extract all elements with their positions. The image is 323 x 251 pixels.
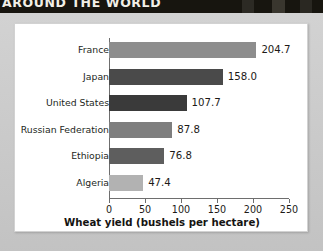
bar-row: Algeria47.4 (15, 171, 309, 195)
x-axis-tick (217, 199, 218, 203)
x-axis-tick (253, 199, 254, 203)
bar-value-label: 76.8 (169, 144, 192, 168)
bar-category-label: Algeria (0, 171, 109, 195)
bar-value-label: 107.7 (192, 91, 221, 115)
bar-category-label: France (0, 38, 109, 62)
bar-ethiopia (109, 148, 164, 164)
x-axis-tick (289, 199, 290, 203)
page-header-band: AROUND THE WORLD (0, 0, 323, 13)
x-axis-tick (109, 199, 110, 203)
bar-value-label: 204.7 (261, 38, 290, 62)
x-axis-tick-label: 100 (172, 204, 190, 215)
bar-france (109, 42, 256, 58)
x-axis-tick-label: 200 (244, 204, 262, 215)
bar-value-label: 158.0 (228, 65, 257, 89)
bar-row: Japan158.0 (15, 65, 309, 89)
bar-category-label: United States (0, 91, 109, 115)
x-axis-line (109, 198, 289, 199)
x-axis-tick-label: 50 (139, 204, 151, 215)
bar-value-label: 87.8 (177, 118, 200, 142)
x-axis-tick-label: 0 (106, 204, 112, 215)
bar-value-label: 47.4 (148, 171, 171, 195)
bar-japan (109, 69, 223, 85)
bar-chart-plot-area: Wheat yield (bushels per hectare) France… (15, 24, 309, 233)
bar-row: France204.7 (15, 38, 309, 62)
x-axis-tick (145, 199, 146, 203)
x-axis-tick-label: 150 (208, 204, 226, 215)
bar-category-label: Ethiopia (0, 144, 109, 168)
bar-row: Ethiopia76.8 (15, 144, 309, 168)
x-axis-tick (181, 199, 182, 203)
header-decoration-blocks (228, 0, 323, 13)
bar-russian-federation (109, 122, 172, 138)
header-band-title: AROUND THE WORLD (2, 0, 161, 10)
bar-category-label: Russian Federation (0, 118, 109, 142)
bar-row: Russian Federation87.8 (15, 118, 309, 142)
bar-row: United States107.7 (15, 91, 309, 115)
chart-panel: Wheat yield (bushels per hectare) France… (14, 23, 308, 232)
bar-algeria (109, 175, 143, 191)
bar-category-label: Japan (0, 65, 109, 89)
x-axis-tick-label: 250 (280, 204, 298, 215)
bar-united-states (109, 95, 187, 111)
x-axis-title: Wheat yield (bushels per hectare) (15, 217, 309, 228)
